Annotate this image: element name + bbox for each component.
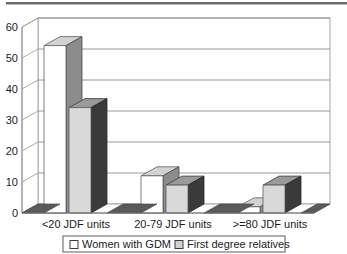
y-tick-20: 20 bbox=[6, 145, 18, 157]
legend-swatch-first-degree-relatives[interactable] bbox=[175, 241, 183, 249]
bar-front-face bbox=[166, 185, 188, 213]
x-label-cat-1: <20 JDF units bbox=[42, 218, 111, 230]
y-tick-60: 60 bbox=[6, 21, 18, 33]
bar-front-face bbox=[44, 46, 66, 213]
legend-label-first-degree-relatives: First degree relatives bbox=[187, 238, 290, 250]
chart-legend: Women with GDM First degree relatives bbox=[63, 236, 290, 252]
bar-first-degree-group-2 bbox=[166, 176, 204, 213]
y-axis-tick-labels: 60 50 40 30 20 10 0 bbox=[6, 21, 18, 219]
legend-label-women-gdm: Women with GDM bbox=[82, 238, 171, 250]
y-tick-40: 40 bbox=[6, 83, 18, 95]
y-tick-30: 30 bbox=[6, 114, 18, 126]
bar-side-face bbox=[91, 99, 107, 213]
x-label-cat-3: >=80 JDF units bbox=[233, 218, 308, 230]
page-top-rule-shadow bbox=[6, 4, 347, 5]
bar-first-degree-group-1 bbox=[69, 99, 107, 213]
chart-figure: 60 50 40 30 20 10 0 bbox=[0, 0, 347, 254]
bar-front-face bbox=[263, 185, 285, 213]
legend-swatch-women-gdm[interactable] bbox=[70, 241, 78, 249]
x-label-cat-2: 20-79 JDF units bbox=[134, 218, 212, 230]
bar-front-face bbox=[69, 108, 91, 213]
y-tick-0: 0 bbox=[12, 207, 18, 219]
x-axis-category-labels: <20 JDF units 20-79 JDF units >=80 JDF u… bbox=[42, 218, 308, 230]
y-tick-10: 10 bbox=[6, 176, 18, 188]
bar-chart-plot: 60 50 40 30 20 10 0 bbox=[0, 8, 347, 254]
bar-first-degree-group-3 bbox=[263, 176, 301, 213]
y-tick-50: 50 bbox=[6, 52, 18, 64]
